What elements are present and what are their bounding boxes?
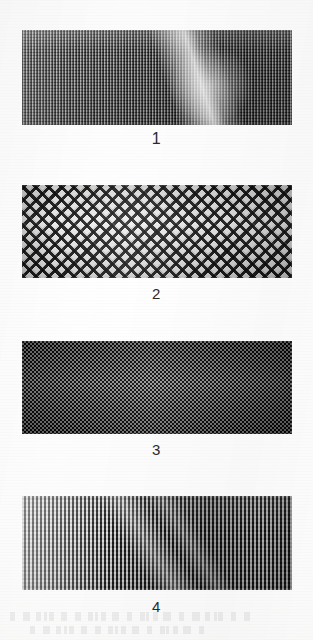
weave-texture-3 [22, 341, 292, 434]
specimen-swatch-3 [22, 341, 292, 434]
weave-texture-4 [22, 496, 292, 590]
figure-plate: 1 2 3 4 [0, 0, 313, 640]
specimen-label-1: 1 [0, 131, 313, 147]
specimen-swatch-4 [22, 496, 292, 590]
specimen-label-4: 4 [0, 599, 313, 614]
specimen-label-2: 2 [0, 286, 313, 301]
specimen-label-3: 3 [0, 442, 313, 457]
weave-texture-1 [22, 30, 292, 125]
specimen-swatch-2 [22, 185, 292, 278]
page-bleed-through [30, 626, 210, 634]
weave-texture-2 [22, 185, 292, 278]
specimen-swatch-1 [22, 30, 292, 125]
